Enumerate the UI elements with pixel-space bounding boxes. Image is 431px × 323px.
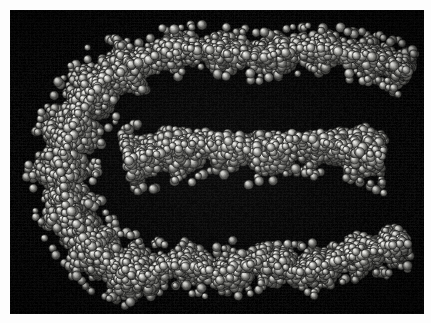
molecule-render-canvas xyxy=(10,10,424,314)
molecular-model-image xyxy=(10,10,424,314)
figure-root: Space-filling (CPK) molecular model Gray… xyxy=(0,0,431,323)
